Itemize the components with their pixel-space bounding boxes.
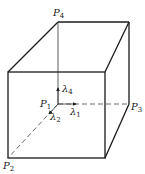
label-lambda2: λ2: [49, 111, 61, 124]
edge-top-right: [105, 22, 129, 72]
label-p3: P3: [130, 101, 142, 114]
label-p1: P1: [39, 98, 51, 111]
label-p2: P2: [2, 160, 14, 173]
cube-diagram: P4 P1 P3 P2 λ4 λ1 λ2: [0, 0, 145, 174]
front-face: [8, 72, 105, 158]
edge-top-left: [8, 22, 58, 72]
label-lambda1: λ1: [69, 106, 81, 119]
label-lambda4: λ4: [61, 83, 73, 96]
edge-bottom-right: [105, 104, 129, 158]
label-p4: P4: [52, 7, 65, 20]
